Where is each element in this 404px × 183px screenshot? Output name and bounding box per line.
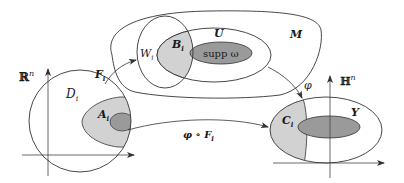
label-hn: ℍn <box>340 73 356 88</box>
diagram-svg: ℝn Di Ai Fi Wi Bi U M supp ω φ φ ∘ Fi ℍn… <box>0 0 404 183</box>
label-f-i: Fi <box>94 68 106 83</box>
label-w-i: Wi <box>140 47 154 62</box>
label-phi-circ-f-i: φ ∘ Fi <box>183 129 214 143</box>
label-supp-omega: supp ω <box>203 48 239 59</box>
region-c-i <box>250 90 307 170</box>
label-phi: φ <box>304 79 312 92</box>
label-m: M <box>289 28 303 41</box>
label-d-i: Di <box>65 87 79 103</box>
label-y: Y <box>351 106 360 119</box>
image-y <box>298 116 360 138</box>
right-space-group <box>250 76 384 178</box>
manifold-chart-diagram: ℝn Di Ai Fi Wi Bi U M supp ω φ φ ∘ Fi ℍn… <box>0 0 404 183</box>
arrow-f-i <box>105 60 136 84</box>
label-rn: ℝn <box>19 69 34 84</box>
label-u: U <box>214 27 225 40</box>
